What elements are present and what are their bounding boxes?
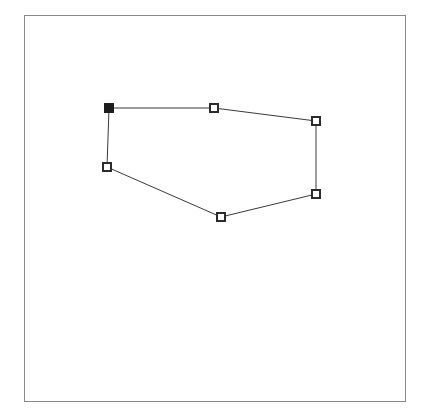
vertex-top-right-handle[interactable] <box>312 117 320 125</box>
vertex-top-mid-handle[interactable] <box>210 104 218 112</box>
application-root <box>0 0 428 420</box>
vertex-bottom-right-handle[interactable] <box>312 190 320 198</box>
vertex-top-left-handle[interactable] <box>105 104 113 112</box>
shape-layer <box>0 0 428 420</box>
vertex-bottom-mid-handle[interactable] <box>217 213 225 221</box>
vertex-left-handle[interactable] <box>103 163 111 171</box>
polygon-outline[interactable] <box>107 108 316 217</box>
